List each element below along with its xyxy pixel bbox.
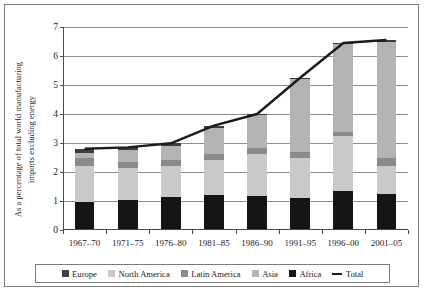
plot-inner: 012345671967–701971–751976–801981–851986… (63, 27, 408, 230)
y-tick-mark (60, 56, 63, 57)
legend-label: Total (346, 269, 364, 279)
y-tick-mark (60, 201, 63, 202)
legend-item-asia[interactable]: Asia (252, 269, 278, 279)
plot-area: 012345671967–701971–751976–801981–851986… (63, 27, 408, 230)
legend-swatch-icon (289, 270, 296, 277)
y-tick-label: 1 (53, 196, 58, 206)
x-tick-label: 1991–95 (284, 238, 316, 248)
x-tick-label: 1996–00 (328, 238, 360, 248)
legend-line-icon (332, 273, 342, 275)
y-tick-mark (60, 143, 63, 144)
legend-item-north-america[interactable]: North America (108, 269, 170, 279)
x-tick-label: 1986–90 (241, 238, 273, 248)
legend-item-africa[interactable]: Africa (289, 269, 321, 279)
x-tick-mark (322, 230, 323, 234)
legend-label: North America (118, 269, 169, 279)
x-tick-mark (365, 230, 366, 234)
y-tick-mark (60, 172, 63, 173)
y-tick-label: 7 (53, 22, 58, 32)
legend-label: Asia (262, 269, 278, 279)
legend-swatch-icon (108, 270, 115, 277)
x-tick-mark (408, 230, 409, 234)
x-tick-mark (63, 230, 64, 234)
y-tick-label: 4 (53, 109, 58, 119)
x-tick-label: 1981–85 (198, 238, 230, 248)
y-tick-label: 5 (53, 80, 58, 90)
y-tick-mark (60, 114, 63, 115)
legend-item-latin-america[interactable]: Latin America (181, 269, 241, 279)
y-tick-mark (60, 85, 63, 86)
x-tick-label: 1976–80 (155, 238, 187, 248)
y-tick-label: 3 (53, 138, 58, 148)
legend-label: Europe (72, 269, 97, 279)
y-axis-title: As a percentage of total world manufactu… (11, 39, 41, 239)
legend-swatch-icon (62, 270, 69, 277)
legend-label: Africa (299, 269, 321, 279)
x-tick-mark (106, 230, 107, 234)
legend-label: Latin America (191, 269, 240, 279)
x-tick-mark (149, 230, 150, 234)
legend-swatch-icon (181, 270, 188, 277)
x-tick-label: 2001–05 (371, 238, 403, 248)
x-tick-mark (236, 230, 237, 234)
y-tick-label: 6 (53, 51, 58, 61)
figure-frame: As a percentage of total world manufactu… (4, 4, 419, 287)
x-tick-label: 1971–75 (112, 238, 144, 248)
legend-item-europe[interactable]: Europe (62, 269, 97, 279)
legend-item-total[interactable]: Total (332, 269, 363, 279)
y-axis-line (63, 27, 64, 230)
y-tick-mark (60, 27, 63, 28)
y-tick-label: 0 (53, 225, 58, 235)
chart-legend: EuropeNorth AmericaLatin AmericaAsiaAfri… (35, 264, 390, 283)
x-tick-label: 1967–70 (69, 238, 101, 248)
y-tick-label: 2 (53, 167, 58, 177)
total-line-series (63, 27, 408, 230)
y-axis-title-line-2: imports excluding energy (24, 39, 39, 239)
total-line-path (85, 40, 387, 149)
legend-swatch-icon (252, 270, 259, 277)
x-tick-mark (279, 230, 280, 234)
x-tick-mark (192, 230, 193, 234)
